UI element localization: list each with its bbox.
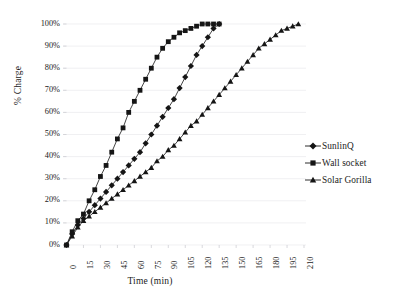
x-tick-label: 195 (290, 257, 298, 269)
x-tick-label: 75 (155, 261, 163, 269)
square-marker-icon (304, 157, 322, 169)
x-tick-label: 180 (273, 257, 281, 269)
triangle-marker-icon (304, 174, 322, 186)
x-tick-label: 30 (104, 261, 112, 269)
x-tick-label: 90 (171, 261, 179, 269)
x-tick-label: 150 (239, 257, 247, 269)
x-tick-label: 15 (87, 261, 95, 269)
x-tick-label: 0 (70, 265, 78, 269)
x-tick-label: 105 (188, 257, 196, 269)
x-tick-label: 60 (138, 261, 146, 269)
legend-item-solar-gorilla[interactable]: Solar Gorilla (304, 171, 406, 188)
x-tick-label: 165 (256, 257, 264, 269)
chart-legend: SunlinQWall socketSolar Gorilla (302, 135, 406, 190)
charge-time-line-chart: % Charge Time (min) 0%10%20%30%40%50%60%… (0, 0, 409, 296)
x-tick-label: 120 (205, 257, 213, 269)
diamond-marker-icon (304, 140, 322, 152)
x-tick-label: 45 (121, 261, 129, 269)
x-tick-label: 210 (307, 257, 315, 269)
x-tick-label: 135 (222, 257, 230, 269)
legend-item-label: Wall socket (322, 158, 367, 168)
legend-item-sunlinq[interactable]: SunlinQ (304, 137, 406, 154)
legend-item-label: SunlinQ (322, 141, 354, 151)
legend-item-wall-socket[interactable]: Wall socket (304, 154, 406, 171)
legend-item-label: Solar Gorilla (322, 175, 372, 185)
